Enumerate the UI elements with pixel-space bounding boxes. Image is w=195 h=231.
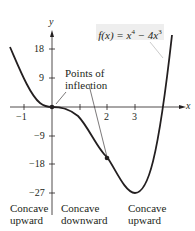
region-concave-upward-right: Concave upward <box>128 202 166 226</box>
y-tick-label: −9 <box>34 131 45 141</box>
formula-leader <box>150 42 163 58</box>
inflection-point-1 <box>50 105 55 110</box>
y-tick-label: 9 <box>39 73 44 83</box>
y-axis-label: y <box>49 17 53 27</box>
x-axis-label: x <box>186 101 190 111</box>
region-concave-upward-left: Concave upward <box>10 202 48 226</box>
x-tick-label: 2 <box>104 112 109 122</box>
leader-line-1 <box>56 92 66 104</box>
inflection-annotation: Points of inflection <box>65 67 107 91</box>
y-axis-arrow-icon <box>50 30 54 37</box>
y-tick-label: −18 <box>29 159 45 169</box>
function-label: f(x) = x4 − 4x3 <box>96 24 164 40</box>
x-tick-label: 3 <box>132 112 137 122</box>
function-curve <box>10 35 172 193</box>
inflection-point-2 <box>105 156 110 161</box>
region-concave-downward: Concave downward <box>61 202 107 226</box>
y-tick-label: 18 <box>34 44 44 54</box>
x-axis-arrow-icon <box>179 105 186 109</box>
x-tick-label: −1 <box>16 112 27 122</box>
y-tick-label: −27 <box>29 188 45 198</box>
